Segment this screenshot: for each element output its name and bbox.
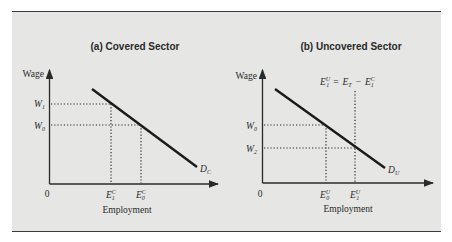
origin-label: 0 [258,189,263,199]
x-axis-label: Employment [102,205,151,215]
employment-e0u-label: EU0 [319,189,331,201]
demand-curve-dc [92,89,197,167]
origin-label: 0 [45,189,50,199]
wage-w0-label: W0 [246,121,257,132]
x-axis-label: Employment [323,204,372,214]
employment-identity-annotation: EU1=ET−EC1 [319,76,376,88]
labor-market-diagram: (a) Covered Sector Wage 0 Employment W1 … [0,0,452,242]
demand-curve-label: DU [387,165,400,176]
uncovered-sector-chart: (b) Uncovered Sector Wage 0 Employment E… [236,41,433,214]
demand-curve-du [275,89,385,168]
wage-w2-label: W2 [246,144,257,155]
demand-curve-label: DC [199,164,212,175]
employment-e1c-label: EC1 [105,189,117,201]
uncovered-sector-title: (b) Uncovered Sector [300,41,401,52]
covered-sector-title: (a) Covered Sector [91,41,180,52]
y-axis-label: Wage [236,71,257,81]
wage-w1-label: W1 [34,99,45,110]
employment-e0c-label: EC0 [135,189,147,201]
wage-w0-label: W0 [34,121,45,132]
y-axis-label: Wage [23,69,44,79]
employment-e1u-label: EU1 [349,189,361,201]
covered-sector-chart: (a) Covered Sector Wage 0 Employment W1 … [23,41,218,215]
